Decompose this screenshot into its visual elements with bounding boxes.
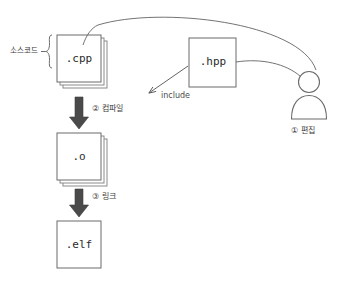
compile-arrow <box>70 97 89 129</box>
hpp-file-label: .hpp <box>196 56 230 67</box>
link-step-label: ③ 링크 <box>92 193 116 201</box>
source-code-brace <box>41 35 52 68</box>
build-process-diagram: .cpp .hpp .o .elf 소스코드 ② 컴파일 ③ 링크 includ… <box>0 0 337 281</box>
link-arrow <box>70 189 89 217</box>
diagram-vector-layer <box>0 0 337 281</box>
include-label: include <box>161 92 190 100</box>
edit-hpp-arc <box>236 61 300 76</box>
edit-step-label: ① 편집 <box>291 127 315 135</box>
include-arrow <box>149 66 188 93</box>
person-figure <box>292 72 327 120</box>
object-file-label: .o <box>64 151 94 162</box>
cpp-file-label: .cpp <box>64 53 94 64</box>
elf-file-label: .elf <box>62 239 96 250</box>
source-code-label: 소스코드 <box>10 47 38 55</box>
compile-step-label: ② 컴파일 <box>92 105 123 113</box>
